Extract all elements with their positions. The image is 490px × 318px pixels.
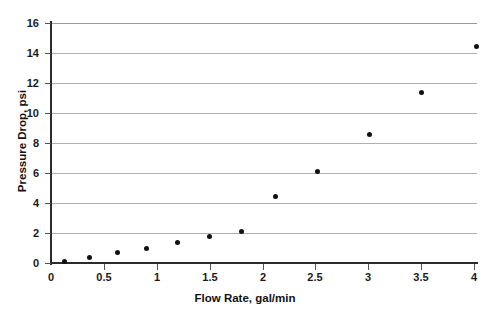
x-tick-label-3: 3 bbox=[348, 272, 388, 283]
gridline-y-2 bbox=[51, 233, 477, 234]
x-tick-label-1.5: 1.5 bbox=[190, 272, 230, 283]
y-tick-mark-4 bbox=[45, 203, 51, 204]
data-point bbox=[144, 246, 149, 251]
x-tick-mark-4 bbox=[474, 264, 475, 270]
x-tick-mark-0.5 bbox=[104, 264, 105, 270]
x-tick-label-0.5: 0.5 bbox=[84, 272, 124, 283]
x-tick-label-4: 4 bbox=[454, 272, 490, 283]
pressure-drop-vs-flow-rate-chart: 0246810121416 00.511.522.533.54 Pressure… bbox=[0, 0, 490, 318]
gridline-y-8 bbox=[51, 143, 477, 144]
data-point bbox=[239, 229, 244, 234]
y-tick-label-2: 2 bbox=[0, 228, 39, 239]
y-tick-label-0: 0 bbox=[0, 258, 39, 269]
x-tick-mark-3.5 bbox=[421, 264, 422, 270]
data-point bbox=[87, 255, 92, 260]
data-point bbox=[474, 44, 479, 49]
x-tick-label-2.5: 2.5 bbox=[295, 272, 335, 283]
x-tick-mark-3 bbox=[368, 264, 369, 270]
data-point bbox=[315, 169, 320, 174]
x-axis-title: Flow Rate, gal/min bbox=[0, 292, 490, 304]
gridline-y-14 bbox=[51, 53, 477, 54]
x-tick-mark-2 bbox=[263, 264, 264, 270]
y-axis-title: Pressure Drop, psi bbox=[16, 56, 28, 226]
gridline-y-4 bbox=[51, 203, 477, 204]
y-tick-mark-16 bbox=[45, 23, 51, 24]
data-point bbox=[419, 90, 424, 95]
gridline-y-10 bbox=[51, 113, 477, 114]
gridline-y-16 bbox=[51, 23, 477, 24]
x-tick-label-1: 1 bbox=[137, 272, 177, 283]
x-tick-label-2: 2 bbox=[243, 272, 283, 283]
gridline-y-12 bbox=[51, 83, 477, 84]
y-tick-mark-12 bbox=[45, 83, 51, 84]
x-tick-mark-1 bbox=[157, 264, 158, 270]
x-tick-label-3.5: 3.5 bbox=[401, 272, 441, 283]
y-tick-mark-10 bbox=[45, 113, 51, 114]
x-tick-mark-1.5 bbox=[210, 264, 211, 270]
y-tick-mark-14 bbox=[45, 53, 51, 54]
y-tick-mark-6 bbox=[45, 173, 51, 174]
data-point bbox=[273, 194, 278, 199]
x-tick-mark-2.5 bbox=[315, 264, 316, 270]
x-tick-label-0: 0 bbox=[31, 272, 71, 283]
gridline-y-6 bbox=[51, 173, 477, 174]
y-tick-mark-0 bbox=[45, 263, 51, 264]
y-tick-mark-2 bbox=[45, 233, 51, 234]
x-axis-line bbox=[51, 262, 478, 264]
y-tick-mark-8 bbox=[45, 143, 51, 144]
y-tick-label-16: 16 bbox=[0, 18, 39, 29]
